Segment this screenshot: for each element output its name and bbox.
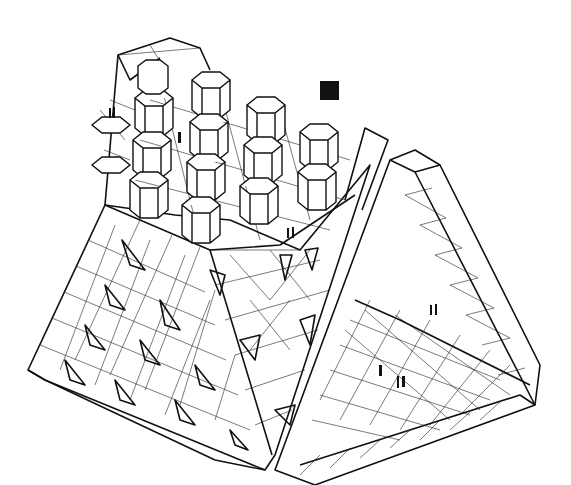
- plaza-grid: [312, 300, 510, 440]
- pyramid-recesses: [65, 240, 318, 450]
- main-slab: [28, 165, 370, 470]
- megastructure-drawing: [0, 0, 571, 485]
- black-square-marker: [320, 81, 339, 100]
